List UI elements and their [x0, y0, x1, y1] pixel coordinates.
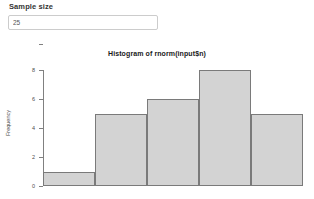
histogram-bars — [0, 44, 314, 199]
histogram-plot: Histogram of rnorm(input$n) Frequency 8 … — [0, 44, 314, 199]
histogram-bar — [43, 172, 95, 187]
sample-size-label: Sample size — [9, 2, 160, 12]
histogram-bar — [199, 70, 251, 186]
histogram-bar — [251, 114, 303, 187]
sample-size-input[interactable] — [8, 15, 158, 30]
histogram-bar — [147, 99, 199, 186]
sample-size-field-group: Sample size — [8, 2, 160, 30]
histogram-bar — [95, 114, 147, 187]
